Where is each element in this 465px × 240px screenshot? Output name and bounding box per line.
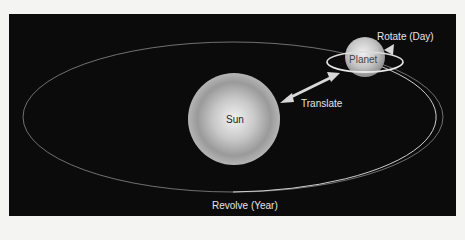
sun-label: Sun	[226, 114, 244, 125]
translate-label: Translate	[301, 98, 342, 109]
planet-label: Planet	[349, 54, 377, 65]
revolve-label: Revolve (Year)	[212, 200, 278, 211]
rotate-label: Rotate (Day)	[377, 31, 434, 42]
